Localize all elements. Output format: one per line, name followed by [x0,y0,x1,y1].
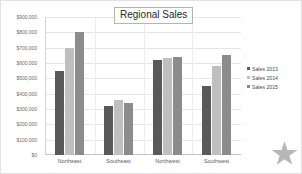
legend-swatch-icon [247,76,250,79]
chart-title[interactable]: Regional Sales [114,7,193,24]
legend-item-label: Sales 2015 [252,84,278,90]
bar[interactable] [114,100,123,155]
y-axis-tick-label: $800,000 [0,29,37,35]
bar[interactable] [55,71,64,155]
bar[interactable] [212,66,221,155]
bar-group [143,17,192,155]
x-axis-tick-label: Southeast [94,158,143,164]
legend-item[interactable]: Sales 2014 [247,73,278,82]
bar[interactable] [153,60,162,155]
y-axis-tick-label: $400,000 [0,91,37,97]
bar[interactable] [222,55,231,155]
x-axis: NortheastSoutheastNorthwestSouthwest [45,158,241,164]
y-axis-tick-label: $100,000 [0,137,37,143]
y-axis-tick-label: $700,000 [0,45,37,51]
bar[interactable] [163,58,172,155]
bar[interactable] [202,86,211,155]
bar-group [192,17,241,155]
y-axis-tick-label: $500,000 [0,75,37,81]
legend-item-label: Sales 2013 [252,66,278,72]
y-axis-tick-label: $200,000 [0,121,37,127]
legend-item[interactable]: Sales 2015 [247,82,278,91]
bar[interactable] [104,106,113,155]
y-axis-tick-label: $900,000 [0,14,37,20]
bar[interactable] [75,32,84,155]
bar-groups [45,17,241,155]
bar[interactable] [124,103,133,155]
x-axis-tick-label: Northwest [143,158,192,164]
bar-group [94,17,143,155]
legend-item[interactable]: Sales 2013 [247,64,278,73]
x-axis-tick-label: Northeast [45,158,94,164]
bar[interactable] [173,57,182,155]
x-axis-tick-label: Southwest [192,158,241,164]
bar-group [45,17,94,155]
y-axis-tick-label: $600,000 [0,60,37,66]
chart-legend[interactable]: Sales 2013Sales 2014Sales 2015 [247,64,278,91]
y-axis-tick-label: $0 [0,152,37,158]
y-axis-tick-label: $300,000 [0,106,37,112]
bar[interactable] [65,48,74,155]
legend-item-label: Sales 2014 [252,75,278,81]
chart-container: $900,000$800,000$700,000$600,000$500,000… [0,0,302,174]
legend-swatch-icon [247,85,250,88]
star-icon [271,141,298,167]
legend-swatch-icon [247,67,250,70]
